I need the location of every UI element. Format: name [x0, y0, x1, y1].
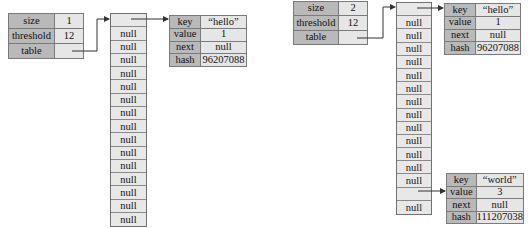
left-table-pointer-arrow: [72, 19, 109, 51]
right-table-pointer-arrow: [357, 7, 395, 38]
pointer-arrows: [0, 0, 532, 228]
